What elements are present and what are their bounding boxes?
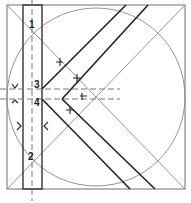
tick-arrow-icon: [17, 122, 21, 130]
tick-arrow-icon: [12, 100, 18, 103]
label-1: 1: [29, 19, 35, 30]
arm-inner-stroke: [42, 5, 126, 89]
label-4: 4: [34, 97, 40, 108]
leg-inner-stroke: [42, 99, 130, 189]
label-2: 2: [28, 151, 34, 162]
tick-arrow-icon: [44, 122, 48, 130]
tick-arrow-icon: [12, 84, 18, 88]
arm-outer-stroke: [62, 5, 148, 99]
k-construction-diagram: 1 2 3 4: [0, 0, 191, 203]
label-3: 3: [34, 79, 40, 90]
tick-arrow-icon: [56, 58, 63, 66]
